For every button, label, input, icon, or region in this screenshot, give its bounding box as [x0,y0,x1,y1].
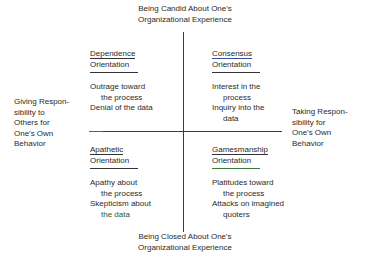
quadrant-title: Gamesmanship Orientation [212,145,268,169]
item-line: the process [212,189,284,200]
horizontal-axis [89,131,282,132]
quadrant-title-line: Orientation [90,156,138,167]
quadrant-title-line: Orientation [90,60,138,71]
quadrant-gamesmanship: Gamesmanship Orientation Platitudes towa… [212,145,284,220]
quadrant-items: Interest in the process Inquiry into the… [212,82,264,124]
quadrant-title-line: Apathetic [90,145,123,155]
quadrant-items: Apathy about the process Skepticism abou… [90,178,151,220]
quadrant-dependence: Dependence Orientation Outrage toward th… [90,49,153,114]
title-underline [90,168,138,169]
quadrant-item: Denial of the data [90,103,153,114]
quadrant-item: Outrage toward the process [90,82,153,103]
left-axis-label-line: sibility to [14,108,69,119]
quadrant-item: Inquiry into the data [212,103,264,124]
quadrant-title: Dependence Orientation [90,49,138,73]
top-axis-label: Being Candid About One's Organizational … [120,4,250,25]
title-underline [90,72,138,73]
vertical-axis [183,32,184,232]
quadrant-title: Apathetic Orientation [90,145,138,169]
quadrant-item: Apathy about the process [90,178,151,199]
right-axis-label-line: sibility for [292,118,348,129]
quadrant-item: Skepticism about the data [90,199,151,220]
quadrant-item: Interest in the process [212,82,264,103]
left-axis-label-line: One's Own [14,129,69,140]
quadrant-title-line: Orientation [212,60,260,71]
bottom-axis-label: Being Closed About One's Organizational … [120,232,250,253]
item-line: Inquiry into the [212,103,264,114]
item-line: Interest in the [212,82,264,93]
quadrant-title-line: Consensus [212,49,252,59]
item-line: Skepticism about [90,199,151,210]
right-axis-label-line: Taking Respon- [292,107,348,118]
quadrant-title: Consensus Orientation [212,49,260,73]
quadrant-consensus: Consensus Orientation Interest in the pr… [212,49,264,124]
bottom-axis-label-line: Being Closed About One's [120,232,250,243]
left-axis-label-line: Others for [14,118,69,129]
item-line: process [212,93,264,104]
item-line: the data [90,210,151,221]
item-line: Apathy about [90,178,151,189]
right-axis-label-line: One's Own [292,128,348,139]
right-axis-label: Taking Respon- sibility for One's Own Be… [292,107,348,149]
item-line: data [212,114,264,125]
item-line: Denial of the data [90,103,153,114]
top-axis-label-line: Organizational Experience [120,15,250,26]
quadrant-apathetic: Apathetic Orientation Apathy about the p… [90,145,151,220]
quadrant-item: Platitudes toward the process [212,178,284,199]
quadrant-title-line: Gamesmanship [212,145,268,155]
left-axis-label-line: Behavior [14,139,69,150]
right-axis-label-line: Behavior [292,139,348,150]
top-axis-label-line: Being Candid About One's [120,4,250,15]
item-line: Outrage toward [90,82,153,93]
bottom-axis-label-line: Organizational Experience [120,243,250,254]
title-underline [212,72,260,73]
left-axis-label-line: Giving Respon- [14,97,69,108]
quadrant-items: Outrage toward the process Denial of the… [90,82,153,114]
quadrant-title-line: Dependence [90,49,135,59]
item-line: Attacks on imagined [212,199,284,210]
item-line: the process [90,189,151,200]
title-underline [212,168,260,169]
quadrant-item: Attacks on imagined quoters [212,199,284,220]
quadrant-title-line: Orientation [212,156,268,167]
quadrant-items: Platitudes toward the process Attacks on… [212,178,284,220]
item-line: the process [90,93,153,104]
item-line: Platitudes toward [212,178,284,189]
item-line: quoters [212,210,284,221]
left-axis-label: Giving Respon- sibility to Others for On… [14,97,69,150]
